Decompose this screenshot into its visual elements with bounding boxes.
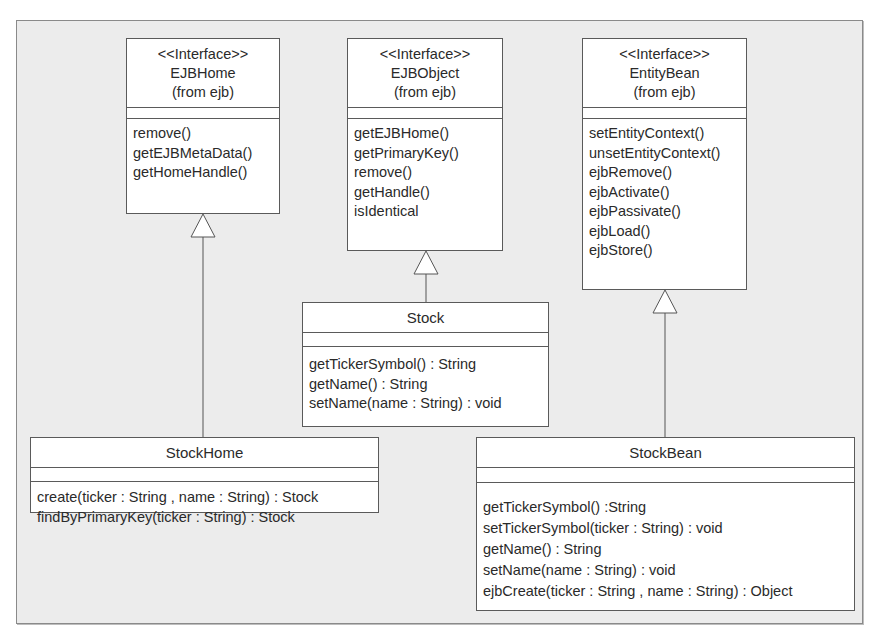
operation: unsetEntityContext()	[589, 144, 740, 164]
class-name: EntityBean	[583, 64, 746, 83]
operation: getPrimaryKey()	[354, 144, 496, 164]
operations-compartment: getTickerSymbol() :String setTickerSymbo…	[477, 483, 854, 606]
operation: ejbRemove()	[589, 163, 740, 183]
class-name: Stock	[303, 308, 548, 327]
generalization-arrowhead-icon	[414, 251, 438, 274]
class-header: <<Interface>> EJBObject (from ejb)	[348, 39, 502, 108]
operation: ejbLoad()	[589, 222, 740, 242]
class-header: <<Interface>> EntityBean (from ejb)	[583, 39, 746, 108]
operation: ejbActivate()	[589, 183, 740, 203]
attributes-compartment	[348, 108, 502, 119]
class-stockhome: StockHome create(ticker : String , name …	[30, 437, 379, 513]
stereotype: <<Interface>>	[348, 45, 502, 64]
operation: remove()	[133, 124, 273, 144]
operation: setName(name : String) : void	[309, 394, 542, 414]
operation: remove()	[354, 163, 496, 183]
operation: ejbPassivate()	[589, 202, 740, 222]
attributes-compartment	[477, 468, 854, 483]
class-entitybean: <<Interface>> EntityBean (from ejb) setE…	[582, 38, 747, 290]
attributes-compartment	[303, 333, 548, 347]
operation: findByPrimaryKey(ticker : String) : Stoc…	[37, 508, 372, 528]
generalization-arrowhead-icon	[191, 214, 215, 237]
class-header: StockHome	[31, 438, 378, 468]
operation: ejbCreate(ticker : String , name : Strin…	[483, 581, 848, 602]
operations-compartment: getTickerSymbol() : String getName() : S…	[303, 347, 548, 418]
operation: ejbStore()	[589, 241, 740, 261]
operation: create(ticker : String , name : String) …	[37, 488, 372, 508]
operation: getTickerSymbol() :String	[483, 497, 848, 518]
class-header: StockBean	[477, 438, 854, 468]
operation: setName(name : String) : void	[483, 560, 848, 581]
attributes-compartment	[31, 468, 378, 482]
operation: getEJBMetaData()	[133, 144, 273, 164]
operation: getEJBHome()	[354, 124, 496, 144]
attributes-compartment	[127, 108, 279, 119]
class-ejbobject: <<Interface>> EJBObject (from ejb) getEJ…	[347, 38, 503, 251]
operations-compartment: remove() getEJBMetaData() getHomeHandle(…	[127, 119, 279, 187]
class-name: StockBean	[477, 443, 854, 462]
class-stock: Stock getTickerSymbol() : String getName…	[302, 302, 549, 427]
class-stockbean: StockBean getTickerSymbol() :String setT…	[476, 437, 855, 611]
operation: isIdentical	[354, 202, 496, 222]
operations-compartment: setEntityContext() unsetEntityContext() …	[583, 119, 746, 265]
class-ejbhome: <<Interface>> EJBHome (from ejb) remove(…	[126, 38, 280, 214]
operation: getName() : String	[309, 375, 542, 395]
class-name: EJBHome	[127, 64, 279, 83]
stereotype: <<Interface>>	[583, 45, 746, 64]
operation: getTickerSymbol() : String	[309, 355, 542, 375]
attributes-compartment	[583, 108, 746, 119]
operation: getHandle()	[354, 183, 496, 203]
operations-compartment: create(ticker : String , name : String) …	[31, 482, 378, 531]
operations-compartment: getEJBHome() getPrimaryKey() remove() ge…	[348, 119, 502, 226]
package-label: (from ejb)	[127, 83, 279, 102]
class-name: EJBObject	[348, 64, 502, 83]
package-label: (from ejb)	[583, 83, 746, 102]
operation: setTickerSymbol(ticker : String) : void	[483, 518, 848, 539]
operation: setEntityContext()	[589, 124, 740, 144]
class-header: Stock	[303, 303, 548, 333]
package-label: (from ejb)	[348, 83, 502, 102]
stereotype: <<Interface>>	[127, 45, 279, 64]
operation: getName() : String	[483, 539, 848, 560]
class-header: <<Interface>> EJBHome (from ejb)	[127, 39, 279, 108]
class-name: StockHome	[31, 443, 378, 462]
operation: getHomeHandle()	[133, 163, 273, 183]
generalization-arrowhead-icon	[653, 290, 677, 313]
